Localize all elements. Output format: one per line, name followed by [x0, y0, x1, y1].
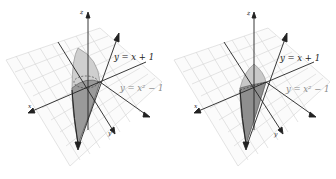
figure-left: z x y y = x + 1 y = x² − 1 — [0, 0, 168, 179]
3d-plot-right: z x y y = x + 1 y = x² − 1 — [168, 0, 336, 179]
equation-label-parabola: y = x² − 1 — [285, 84, 329, 94]
equation-label-parabola: y = x² − 1 — [119, 83, 163, 93]
z-axis-label: z — [79, 8, 84, 15]
equation-label-line: y = x + 1 — [279, 53, 320, 63]
y-axis-label: y — [273, 130, 278, 138]
x-axis-label: x — [194, 102, 198, 109]
equation-label-line: y = x + 1 — [113, 52, 154, 62]
3d-plot-left: z x y y = x + 1 y = x² − 1 — [0, 0, 168, 179]
x-axis-label: x — [28, 102, 32, 109]
z-axis-label: z — [246, 9, 251, 16]
figure-right: z x y y = x + 1 y = x² − 1 — [168, 0, 336, 179]
y-axis-label: y — [107, 129, 112, 137]
